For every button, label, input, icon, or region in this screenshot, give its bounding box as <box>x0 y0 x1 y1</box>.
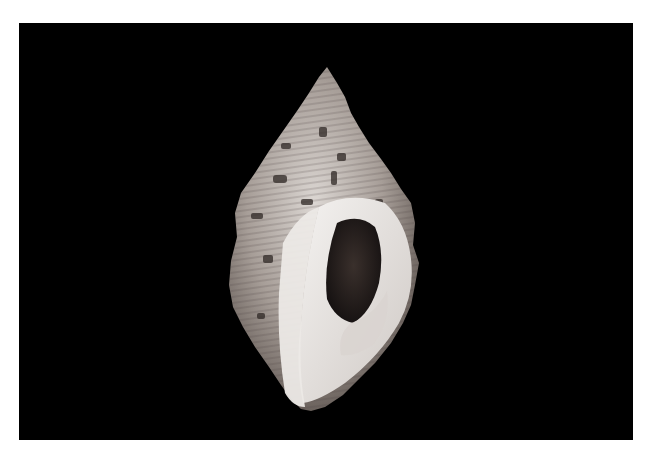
seashell-photo <box>19 23 633 440</box>
photo-frame <box>19 23 633 440</box>
